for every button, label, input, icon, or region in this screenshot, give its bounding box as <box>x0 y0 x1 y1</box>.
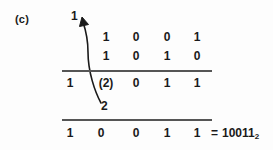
part-label: (c) <box>15 13 29 25</box>
addend2-digit-0: 1 <box>98 49 114 63</box>
addend1-digit-3: 1 <box>189 30 205 44</box>
addend2-digit-3: 0 <box>189 49 205 63</box>
addend1-digit-2: 0 <box>159 30 175 44</box>
carry-source-digit: 2 <box>101 99 108 113</box>
final-digit-4: 1 <box>189 126 205 140</box>
carry-out-digit: 1 <box>71 9 78 23</box>
addend1-digit-0: 1 <box>98 30 114 44</box>
final-digit-2: 0 <box>128 126 144 140</box>
intermediate-digit-0: 1 <box>62 76 78 90</box>
final-digit-0: 1 <box>62 126 78 140</box>
intermediate-digit-3: 1 <box>159 76 175 90</box>
addend1-digit-1: 0 <box>128 30 144 44</box>
intermediate-digit-2: 0 <box>128 76 144 90</box>
final-digit-1: 0 <box>93 126 109 140</box>
final-digit-3: 1 <box>159 126 175 140</box>
sum-rule-bottom <box>62 119 212 121</box>
addend2-digit-1: 0 <box>128 49 144 63</box>
intermediate-digit-4: 1 <box>189 76 205 90</box>
binary-addition-figure: (c) 1 1 0 0 1 1 0 1 0 1 (2) 0 1 1 2 1 0 … <box>0 0 273 150</box>
result-number: 10011 <box>222 126 255 140</box>
equals-sign: = <box>211 126 218 140</box>
intermediate-digit-1: (2) <box>93 76 119 90</box>
result-value: 100112 <box>222 126 259 140</box>
result-base-subscript: 2 <box>255 132 259 141</box>
addend2-digit-2: 1 <box>159 49 175 63</box>
sum-rule-top <box>62 70 212 72</box>
